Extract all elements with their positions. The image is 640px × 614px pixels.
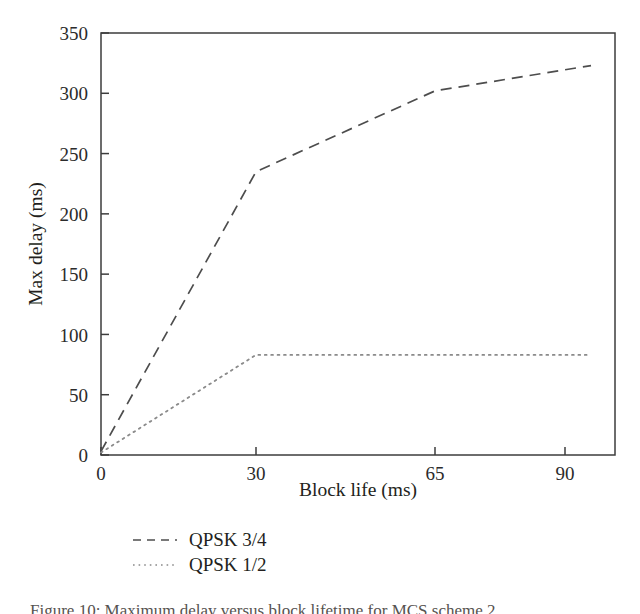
x-tick-label-30: 30 xyxy=(247,464,266,483)
series-line-1 xyxy=(101,66,591,452)
x-axis-title: Block life (ms) xyxy=(299,479,417,501)
y-tick-label-300: 300 xyxy=(24,84,88,103)
x-tick-label-65: 65 xyxy=(426,464,445,483)
y-tick-label-50: 50 xyxy=(24,386,88,405)
y-tick-label-0: 0 xyxy=(24,446,88,465)
y-tick-label-100: 100 xyxy=(24,326,88,345)
y-tick-label-250: 250 xyxy=(24,145,88,164)
y-tick-label-350: 350 xyxy=(24,24,88,43)
x-tick-label-90: 90 xyxy=(556,464,575,483)
x-tick-label-0: 0 xyxy=(96,464,106,483)
figure-caption: Figure 10: Maximum delay versus block li… xyxy=(30,600,615,614)
chart-plot-area xyxy=(0,0,640,614)
chart-legend: QPSK 3/4 QPSK 1/2 xyxy=(133,527,393,577)
legend-entry-qpsk-34: QPSK 3/4 xyxy=(133,527,393,552)
y-axis-title: Max delay (ms) xyxy=(25,182,47,305)
legend-label-qpsk-34: QPSK 3/4 xyxy=(189,529,267,551)
series-line-2 xyxy=(101,355,591,453)
legend-dotted-line-icon xyxy=(133,559,177,571)
legend-label-qpsk-12: QPSK 1/2 xyxy=(189,554,267,576)
figure-container: 350 300 250 200 150 100 50 0 0 30 65 90 … xyxy=(0,0,640,614)
legend-entry-qpsk-12: QPSK 1/2 xyxy=(133,552,393,577)
legend-dashed-line-icon xyxy=(133,534,177,546)
